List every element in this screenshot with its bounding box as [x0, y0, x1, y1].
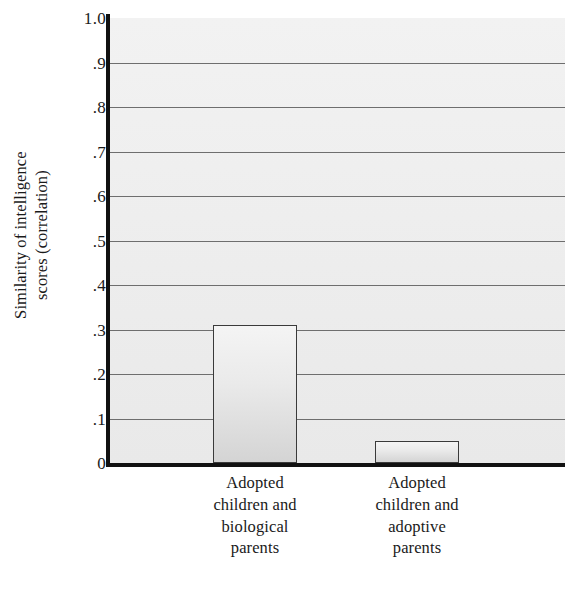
y-axis-tick-label: .8: [58, 99, 106, 116]
plot-area: [110, 18, 565, 463]
x-axis-tick-label-line: Adopted: [337, 472, 497, 494]
gridline: [110, 419, 565, 420]
y-axis-tick-label: .3: [58, 321, 106, 338]
y-axis-title-line-1: Similarity of intelligence: [10, 151, 31, 319]
x-axis-line: [106, 463, 565, 467]
bar-chart-figure: scores (correlation) Similarity of intel…: [0, 0, 582, 596]
x-axis-tick-label-line: Adopted: [175, 472, 335, 494]
gridline: [110, 196, 565, 197]
y-axis-title: scores (correlation) Similarity of intel…: [0, 0, 62, 470]
y-axis-tick-label: 1.0: [58, 10, 106, 27]
y-axis-tick-label: .7: [58, 143, 106, 160]
gridline: [110, 152, 565, 153]
x-axis-tick-label-line: children and: [337, 494, 497, 516]
y-axis-tick-label: .5: [58, 232, 106, 249]
x-axis-tick-labels: Adoptedchildren andbiologicalparentsAdop…: [110, 472, 565, 592]
y-axis-tick-label: .9: [58, 54, 106, 71]
y-axis-tick-label: 0: [58, 455, 106, 472]
y-axis-title-line-2: scores (correlation): [31, 170, 52, 300]
gridline: [110, 241, 565, 242]
bar: [213, 325, 297, 463]
x-axis-tick-label-line: parents: [337, 537, 497, 559]
gridline: [110, 285, 565, 286]
x-axis-tick-label-line: adoptive: [337, 516, 497, 538]
x-axis-tick-label-line: parents: [175, 537, 335, 559]
gridline: [110, 63, 565, 64]
y-axis-tick-label: .4: [58, 277, 106, 294]
y-axis-tick-label: .6: [58, 188, 106, 205]
gridline: [110, 107, 565, 108]
x-axis-tick-label: Adoptedchildren andbiologicalparents: [175, 472, 335, 559]
x-axis-tick-label: Adoptedchildren andadoptiveparents: [337, 472, 497, 559]
y-axis-tick-label: .1: [58, 410, 106, 427]
y-axis-tick-labels: 1.0.9.8.7.6.5.4.3.2.10: [58, 0, 106, 480]
gridline: [110, 330, 565, 331]
x-axis-tick-label-line: biological: [175, 516, 335, 538]
gridline: [110, 374, 565, 375]
y-axis-tick-label: .2: [58, 366, 106, 383]
bar: [375, 441, 459, 463]
x-axis-tick-label-line: children and: [175, 494, 335, 516]
